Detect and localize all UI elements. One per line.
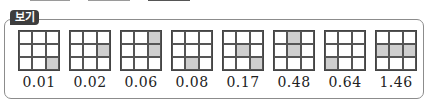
three-by-three-grid	[273, 30, 315, 71]
grid-cell-shaded	[148, 31, 161, 44]
grid-cell	[70, 31, 83, 44]
grid-cell	[185, 44, 198, 57]
grid-value: 0.64	[324, 74, 366, 90]
example-box-label: 보기	[10, 10, 39, 25]
three-by-three-grid	[324, 30, 366, 71]
grid-cell	[389, 31, 402, 44]
grid-cell	[19, 31, 32, 44]
grid-cell	[274, 31, 287, 44]
grid-cell-shaded	[287, 31, 300, 44]
grid-cell	[19, 44, 32, 57]
grid-cell	[376, 57, 389, 70]
grid-cell	[83, 57, 96, 70]
grid-cell	[70, 44, 83, 57]
grid-cell	[338, 57, 351, 70]
grid-item: 0.01	[18, 30, 62, 90]
grid-value: 0.17	[222, 74, 264, 90]
grid-cell	[301, 57, 314, 70]
grid-value: 0.48	[273, 74, 315, 90]
grid-cell	[172, 57, 185, 70]
grid-cell	[338, 44, 351, 57]
cropped-line-fragment	[30, 0, 70, 1]
grid-cell	[97, 31, 110, 44]
grid-cell-shaded	[250, 57, 263, 70]
grid-cell	[134, 57, 147, 70]
grid-cell	[325, 31, 338, 44]
grid-item: 0.17	[222, 30, 266, 90]
three-by-three-grid	[69, 30, 111, 71]
grid-cell	[134, 44, 147, 57]
grid-cell	[223, 44, 236, 57]
grid-cell	[352, 44, 365, 57]
grid-cell	[403, 57, 416, 70]
grid-cell	[301, 44, 314, 57]
grid-cell	[97, 57, 110, 70]
grid-cell	[325, 44, 338, 57]
three-by-three-grid	[120, 30, 162, 71]
grid-cell	[199, 31, 212, 44]
grid-cell	[46, 31, 59, 44]
grid-cell-shaded	[389, 44, 402, 57]
grid-cell	[172, 44, 185, 57]
grid-cell	[274, 44, 287, 57]
grid-cell-shaded	[376, 44, 389, 57]
grid-value: 1.46	[375, 74, 417, 90]
grid-cell	[46, 44, 59, 57]
grid-cell	[236, 57, 249, 70]
grid-item: 0.08	[171, 30, 215, 90]
grid-cell	[403, 31, 416, 44]
grid-cell	[32, 31, 45, 44]
grid-cell	[83, 31, 96, 44]
grid-cell	[172, 31, 185, 44]
grid-cell	[121, 57, 134, 70]
grid-cell	[32, 44, 45, 57]
grid-cell	[352, 31, 365, 44]
three-by-three-grid	[171, 30, 213, 71]
grid-cell	[376, 31, 389, 44]
three-by-three-grid	[222, 30, 264, 71]
grid-cell	[301, 31, 314, 44]
grid-cell	[223, 57, 236, 70]
grid-cell	[185, 31, 198, 44]
grid-cell	[338, 31, 351, 44]
grid-cell	[236, 31, 249, 44]
grid-cell	[199, 57, 212, 70]
grid-cell	[121, 44, 134, 57]
cropped-line-fragment	[148, 0, 190, 1]
grid-cell	[250, 31, 263, 44]
grid-cell	[121, 31, 134, 44]
grid-value: 0.01	[18, 74, 60, 90]
grid-item: 0.06	[120, 30, 164, 90]
three-by-three-grid	[18, 30, 60, 71]
grid-cell	[250, 44, 263, 57]
cropped-line-fragment	[88, 0, 130, 1]
grid-cell	[223, 31, 236, 44]
grid-cell-shaded	[97, 44, 110, 57]
grid-item: 1.46	[375, 30, 419, 90]
grid-cell	[389, 57, 402, 70]
grid-value: 0.06	[120, 74, 162, 90]
grid-cell	[83, 44, 96, 57]
grid-cell-shaded	[148, 44, 161, 57]
grid-cell-shaded	[46, 57, 59, 70]
grid-cell-shaded	[185, 57, 198, 70]
grid-cell	[148, 57, 161, 70]
grid-cell-shaded	[236, 44, 249, 57]
three-by-three-grid	[375, 30, 417, 71]
grid-cell	[274, 57, 287, 70]
grid-value: 0.08	[171, 74, 213, 90]
grid-cell-shaded	[287, 44, 300, 57]
grid-cell	[32, 57, 45, 70]
grid-cell	[352, 57, 365, 70]
grid-value: 0.02	[69, 74, 111, 90]
grid-cell-shaded	[403, 44, 416, 57]
grid-item: 0.48	[273, 30, 317, 90]
grid-cell	[70, 57, 83, 70]
grid-cell	[19, 57, 32, 70]
grid-cell	[287, 57, 300, 70]
grid-item: 0.64	[324, 30, 368, 90]
grid-cell-shaded	[325, 57, 338, 70]
grid-cell	[134, 31, 147, 44]
grid-item: 0.02	[69, 30, 113, 90]
grid-cell	[199, 44, 212, 57]
